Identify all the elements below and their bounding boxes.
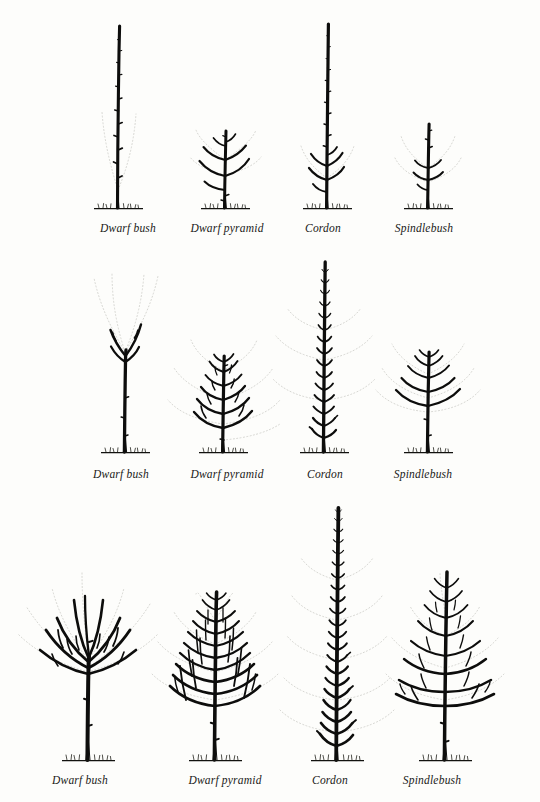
figure-label: Dwarf bush	[99, 222, 156, 235]
figure-label: Dwarf pyramid	[187, 774, 261, 787]
plate-background	[0, 0, 540, 802]
figure-label: Dwarf pyramid	[189, 468, 263, 481]
figure-label: Spindlebush	[403, 774, 461, 787]
figure-label: Dwarf bush	[92, 468, 149, 481]
figure-label: Cordon	[307, 468, 343, 480]
figure-label: Dwarf pyramid	[189, 222, 263, 235]
figure-label: Cordon	[312, 774, 348, 786]
tree-forms-plate: Dwarf bush	[0, 0, 540, 802]
figure-label: Cordon	[305, 222, 341, 234]
figure-label: Dwarf bush	[51, 774, 108, 787]
figure-label: Spindlebush	[395, 222, 453, 235]
figure-label: Spindlebush	[394, 468, 452, 481]
